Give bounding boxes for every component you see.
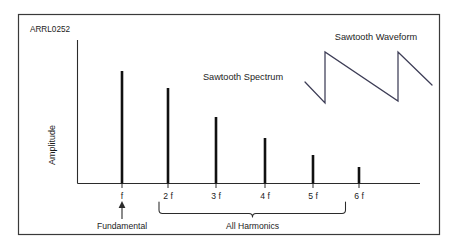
- x-tick-label-6f: 6 f: [354, 191, 364, 201]
- y-axis-title: Amplitude: [47, 125, 57, 165]
- x-tick-label-5f: 5 f: [308, 191, 318, 201]
- harmonics-label: All Harmonics: [226, 221, 279, 231]
- x-tick-label-3f: 3 f: [211, 191, 221, 201]
- figure-canvas: ARRL0252 Amplitude f 2 f: [0, 0, 458, 248]
- catalog-id-label: ARRL0252: [30, 25, 71, 34]
- spectrum-caption: Sawtooth Spectrum: [203, 72, 284, 82]
- x-tick-label-4f: 4 f: [260, 191, 270, 201]
- x-tick-label-2f: 2 f: [163, 191, 173, 201]
- figure-root: ARRL0252 Amplitude f 2 f: [0, 0, 458, 248]
- waveform-caption: Sawtooth Waveform: [335, 32, 418, 42]
- fundamental-label: Fundamental: [97, 221, 147, 231]
